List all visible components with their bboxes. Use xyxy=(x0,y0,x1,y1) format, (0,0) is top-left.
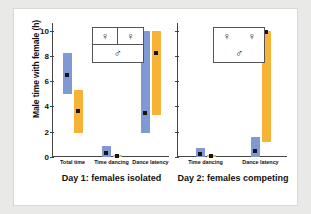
y-tick xyxy=(50,132,54,133)
x-group-label: Total time xyxy=(60,159,85,165)
median-marker xyxy=(143,111,147,115)
female-icon: ♀ xyxy=(247,31,255,42)
x-group-label: Time dancing xyxy=(94,159,129,165)
y-tick xyxy=(175,56,179,57)
y-tick-label: 8 xyxy=(45,51,49,60)
median-marker xyxy=(115,154,119,158)
y-tick xyxy=(50,81,54,82)
x-group-label: Dance latency xyxy=(132,159,168,165)
y-tick xyxy=(175,31,179,32)
panel-caption: Day 2: females competing xyxy=(177,173,288,183)
y-tick xyxy=(50,106,54,107)
median-marker xyxy=(154,51,158,55)
range-bar xyxy=(251,137,260,157)
y-tick xyxy=(50,157,54,158)
legend-female-cell: ♀ xyxy=(93,28,119,44)
y-tick xyxy=(175,106,179,107)
figure-panel: Male time with female (h) 0246810Total t… xyxy=(13,8,298,206)
male-icon: ♂ xyxy=(235,48,243,59)
median-marker xyxy=(65,73,69,77)
legend-box: ♀♀♂ xyxy=(92,27,144,63)
y-tick xyxy=(50,56,54,57)
x-group-label: Dance latency xyxy=(242,159,278,165)
legend-female-cell: ♀ xyxy=(214,28,239,45)
median-marker xyxy=(76,109,80,113)
y-tick-label: 2 xyxy=(45,127,49,136)
plot-area-day2: Time dancingDance latencyDay 2: females … xyxy=(177,23,287,157)
median-marker xyxy=(198,152,202,156)
y-tick xyxy=(175,132,179,133)
y-tick-label: 4 xyxy=(45,102,49,111)
legend-male-row: ♂ xyxy=(214,45,264,62)
female-icon: ♀ xyxy=(126,31,134,42)
female-icon: ♀ xyxy=(222,31,230,42)
median-marker xyxy=(209,154,213,158)
legend-female-cell: ♀ xyxy=(118,28,143,44)
y-tick-label: 6 xyxy=(45,77,49,86)
legend-male-cell: ♂ xyxy=(93,45,143,62)
panel-caption: Day 1: females isolated xyxy=(62,173,162,183)
x-group-label: Time dancing xyxy=(188,159,223,165)
legend-box: ♀♀♂ xyxy=(213,27,265,63)
median-marker xyxy=(104,151,108,155)
y-tick xyxy=(50,31,54,32)
legend-female-row: ♀♀ xyxy=(93,28,143,45)
female-icon: ♀ xyxy=(101,31,109,42)
y-axis-title: Male time with female (h) xyxy=(31,0,41,139)
y-tick-label: 0 xyxy=(45,153,49,162)
male-icon: ♂ xyxy=(113,48,121,59)
legend-male-cell: ♂ xyxy=(214,45,264,62)
legend-female-cell: ♀ xyxy=(239,28,264,45)
y-tick-label: 10 xyxy=(40,26,49,35)
legend-female-row: ♀♀ xyxy=(214,28,264,45)
legend-male-row: ♂ xyxy=(93,45,143,62)
range-bar xyxy=(152,31,161,116)
plot-area-day1: 0246810Total timeTime dancingDance laten… xyxy=(52,23,169,157)
median-marker xyxy=(253,149,257,153)
y-tick xyxy=(175,81,179,82)
y-tick xyxy=(175,157,179,158)
